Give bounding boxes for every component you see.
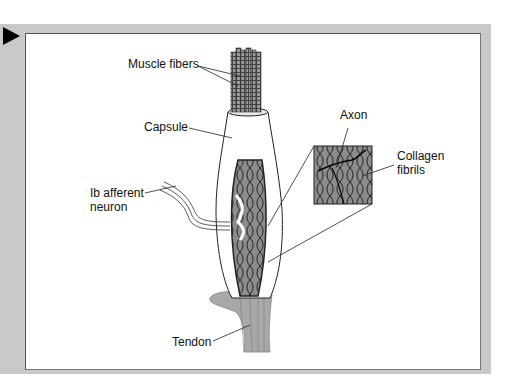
label-axon: Axon (340, 109, 367, 122)
muscle-fibers (231, 48, 261, 112)
golgi-tendon-organ-illustration (0, 0, 509, 388)
collagen-inset (314, 146, 372, 204)
tendon-shape (210, 291, 272, 352)
label-collagen-line2: fibrils (397, 164, 425, 177)
label-collagen-line1: Collagen (397, 150, 444, 163)
label-muscle-fibers: Muscle fibers (128, 58, 199, 71)
label-afferent-line2: neuron (90, 201, 127, 214)
collagen-core (232, 160, 267, 296)
label-afferent-line1: Ib afferent (90, 187, 144, 200)
label-capsule: Capsule (144, 121, 188, 134)
label-tendon: Tendon (172, 336, 211, 349)
